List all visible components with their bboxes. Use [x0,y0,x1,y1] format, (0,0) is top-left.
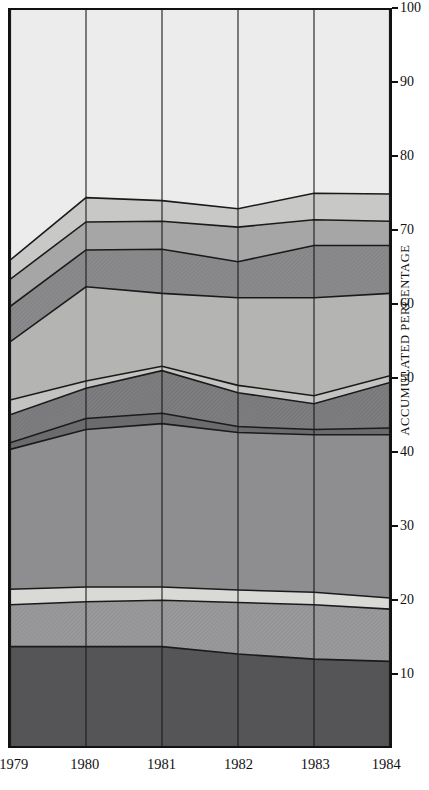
y-tick-mark-80 [392,155,398,157]
y-tick-label-70: 70 [400,220,414,240]
area-band-4 [10,424,390,598]
y-tick-mark-30 [392,525,398,527]
y-tick-label-20: 20 [400,590,414,610]
y-tick-label-30: 30 [400,516,414,536]
area-band-1 [10,647,390,746]
y-tick-mark-70 [392,229,398,231]
y-tick-label-10: 10 [400,664,414,684]
x-tick-label-1982: 1982 [224,756,253,773]
y-tick-label-100: 100 [400,0,421,18]
y-tick-mark-10 [392,673,398,675]
stacked-area-series [10,10,390,746]
y-tick-mark-20 [392,599,398,601]
y-tick-label-90: 90 [400,72,414,92]
x-tick-label-1983: 1983 [301,756,330,773]
y-tick-mark-100 [392,7,398,9]
y-axis-title: ACCUMULATED PERCENTAGE [398,244,413,435]
x-tick-label-1984: 1984 [372,756,401,773]
plot-area [8,8,392,748]
x-tick-label-1980: 1980 [70,756,99,773]
y-tick-mark-90 [392,81,398,83]
x-tick-label-1981: 1981 [147,756,176,773]
x-axis: 197919801981198219831984 [0,750,429,790]
chart-root: 102030405060708090100 ACCUMULATED PERCEN… [0,0,429,790]
y-tick-mark-40 [392,451,398,453]
x-tick-label-1979: 1979 [0,756,28,773]
y-tick-label-40: 40 [400,442,414,462]
y-tick-label-80: 80 [400,146,414,166]
